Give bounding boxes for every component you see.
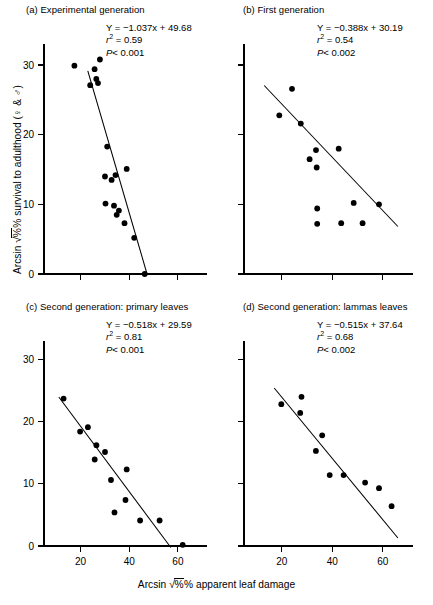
panel-a: (a) Experimental generation Y = −1.037x … [0,0,216,300]
panel-d-plot: 20 40 60 [217,297,433,597]
panel-a-y-ticks: 0 10 20 30 [23,60,44,280]
x-title-prefix: Arcsin [138,579,169,590]
panel-b-x-ticks [282,274,383,280]
panel-c-ytick-20: 20 [23,416,35,427]
radical-arg-x: % [174,578,184,590]
panel-d-xtick-40: 40 [327,556,339,567]
panel-a-x-ticks [81,274,178,280]
panel-c-points [61,396,186,548]
panel-c-axes [44,341,207,546]
panel-d-axes [244,341,413,546]
radical-icon: √% [11,228,23,243]
panel-d-points [278,394,394,509]
radical-arg-a: % [11,228,23,238]
panel-c-y-ticks: 0 10 20 30 [23,354,44,552]
panel-a-y-axis-title: Arcsin √%% survival to adulthood (♀ & ♂) [11,85,23,274]
panel-d-xtick-60: 60 [377,556,389,567]
panel-b: (b) First generation Y = −0.388x + 30.19… [217,0,433,300]
panel-d: (d) Second generation: lammas leaves Y =… [217,297,433,597]
panel-a-axes [44,44,207,274]
panel-b-points [276,86,382,227]
panel-a-ytick-30: 30 [23,60,35,71]
panel-a-ytick-20: 20 [23,129,35,140]
panel-b-axes [244,44,413,274]
figure-container: (a) Experimental generation Y = −1.037x … [0,0,433,605]
panel-c-ytick-10: 10 [23,478,35,489]
panel-a-ytick-10: 10 [23,199,35,210]
radical-icon: √% [169,578,184,590]
panel-c-ytick-0: 0 [28,541,34,552]
panel-c-xtick-40: 40 [124,556,136,567]
figure-x-axis-title: Arcsin √%% apparent leaf damage [0,578,433,590]
panel-a-regression-line [88,71,148,275]
y-title-suffix-a: % survival to adulthood (♀ & ♂) [12,85,23,228]
x-title-suffix: % apparent leaf damage [184,579,295,590]
panel-d-regression-line [274,388,398,538]
panel-d-y-ticks [238,360,244,547]
panel-b-y-ticks [238,65,244,274]
y-title-prefix-a: Arcsin [12,243,23,274]
panel-c-xtick-20: 20 [75,556,87,567]
panel-c-x-ticks: 20 40 60 [75,546,184,567]
panel-b-plot [217,0,433,300]
panel-c-ytick-30: 30 [23,354,35,365]
panel-a-ytick-0: 0 [28,269,34,280]
panel-d-x-ticks: 20 40 60 [276,546,388,567]
panel-a-points [72,57,148,277]
panel-a-plot: 0 10 20 30 [0,0,216,300]
panel-c: (c) Second generation: primary leaves Y … [0,297,216,597]
panel-c-regression-line [59,397,171,548]
panel-c-plot: 0 10 20 30 20 40 60 [0,297,216,597]
panel-d-xtick-20: 20 [276,556,288,567]
panel-c-xtick-60: 60 [172,556,184,567]
